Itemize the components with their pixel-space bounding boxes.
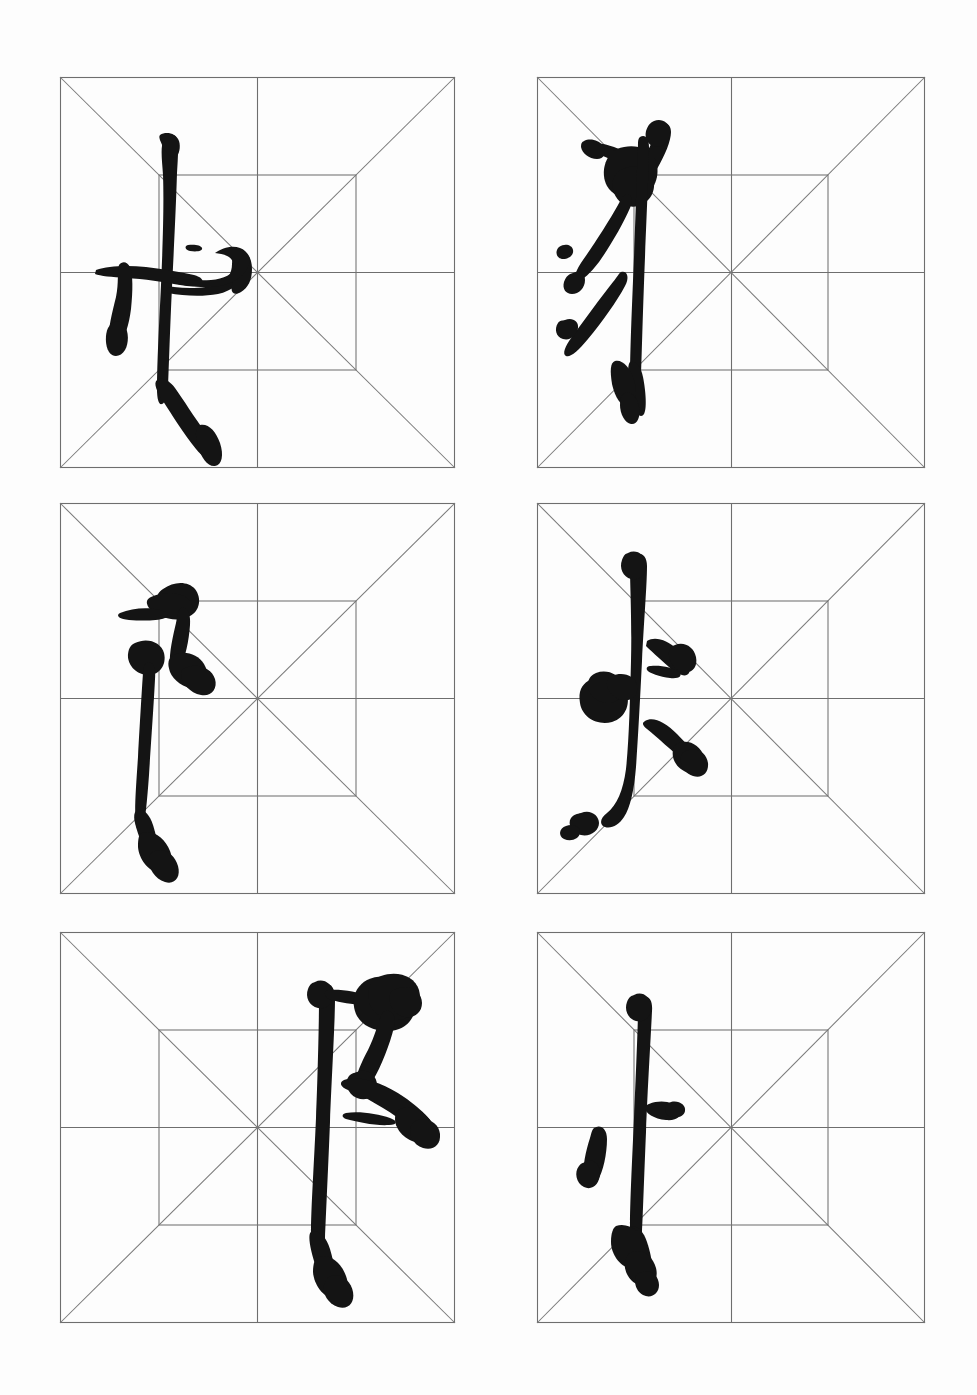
grid-cell-r1c2[interactable] [537,77,925,468]
mizige-grid-r3c2 [537,932,925,1323]
practice-sheet-page [0,0,977,1395]
grid-cell-r3c2[interactable] [537,932,925,1323]
grid-cell-r2c1[interactable] [60,503,455,894]
grid-cell-r2c2[interactable] [537,503,925,894]
grid-sheet [0,0,977,1395]
mizige-grid-r2c2 [537,503,925,894]
mizige-grid-r3c1 [60,932,455,1323]
grid-cell-r1c1[interactable] [60,77,455,468]
mizige-grid-r1c1 [60,77,455,468]
grid-cell-r3c1[interactable] [60,932,455,1323]
mizige-grid-r1c2 [537,77,925,468]
mizige-grid-r2c1 [60,503,455,894]
